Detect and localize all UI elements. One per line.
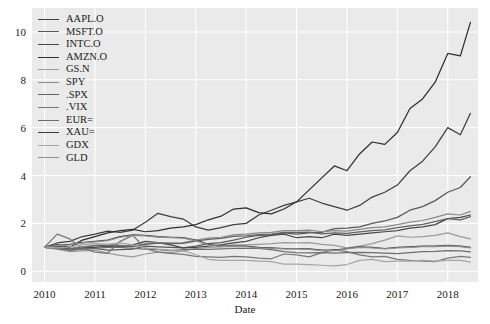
legend-item-label: EUR= [66,115,93,126]
legend-item-label: MSFT.O [66,27,103,38]
legend-line-icon [38,157,59,158]
legend-line-icon [38,31,59,32]
legend-item[interactable]: .VIX [38,101,107,114]
legend-item[interactable]: EUR= [38,114,107,127]
x-axis-title: Date [0,303,490,315]
legend-item-label: XAU= [66,127,95,138]
legend-item-label: .VIX [66,102,87,113]
legend-line-icon [38,120,59,121]
x-axis-tick-label: 2014 [235,288,257,300]
y-axis-tick-label: 4 [0,170,26,182]
legend-item[interactable]: INTC.O [38,38,107,51]
legend-line-icon [38,44,59,45]
x-axis-tick-label: 2018 [437,288,459,300]
legend-line-icon [38,69,59,70]
series-line [45,177,471,250]
x-axis-tick-label: 2017 [386,288,408,300]
legend-line-icon [38,82,59,83]
x-axis-tick-label: 2011 [84,288,106,300]
legend-item-label: GLD [66,153,88,164]
legend-item[interactable]: AAPL.O [38,13,107,26]
legend-item-label: GDX [66,140,89,151]
series-line [45,22,471,247]
legend-item[interactable]: MSFT.O [38,26,107,39]
legend-item[interactable]: .SPX [38,89,107,102]
legend-line-icon [38,19,59,20]
legend-line-icon [38,94,59,95]
legend-item-label: .SPX [66,90,88,101]
legend-item[interactable]: GS.N [38,63,107,76]
legend-item[interactable]: GDX [38,139,107,152]
chart-legend: AAPL.OMSFT.OINTC.OAMZN.OGS.NSPY.SPX.VIXE… [38,13,107,164]
legend-item-label: INTC.O [66,39,101,50]
x-axis-tick-label: 2013 [185,288,207,300]
y-axis-tick-label: 8 [0,74,26,86]
series-line [45,113,471,247]
legend-item[interactable]: SPY [38,76,107,89]
legend-line-icon [38,132,59,133]
series-line [45,211,471,248]
legend-item-label: AAPL.O [66,14,104,25]
legend-item-label: GS.N [66,64,90,75]
y-axis-tick-label: 0 [0,265,26,277]
x-axis-tick-label: 2015 [286,288,308,300]
legend-item-label: SPY [66,77,85,88]
legend-item[interactable]: XAU= [38,126,107,139]
legend-line-icon [38,107,59,108]
legend-item[interactable]: AMZN.O [38,51,107,64]
x-axis-tick-label: 2010 [34,288,56,300]
y-axis-tick-label: 2 [0,217,26,229]
chart-container: 0246810 20102011201220132014201520162017… [0,0,490,324]
legend-line-icon [38,145,59,146]
y-axis-tick-label: 10 [0,26,26,38]
legend-item-label: AMZN.O [66,52,107,63]
legend-item[interactable]: GLD [38,152,107,165]
legend-line-icon [38,57,59,58]
x-axis-tick-label: 2016 [336,288,358,300]
x-axis-tick-label: 2012 [134,288,156,300]
y-axis-tick-label: 6 [0,122,26,134]
